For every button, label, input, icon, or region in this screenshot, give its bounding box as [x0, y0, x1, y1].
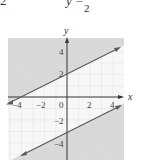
y-tick-neg2: −2 [54, 116, 64, 126]
inequality-graph: y x −4 −2 0 2 4 4 2 −2 −4 [0, 0, 144, 164]
x-tick-4: 4 [110, 100, 115, 110]
y-axis-label: y [63, 25, 69, 36]
x-tick-neg4: −4 [12, 100, 22, 110]
x-tick-0: 0 [59, 100, 64, 110]
x-tick-neg2: −2 [36, 100, 46, 110]
y-tick-neg4: −4 [54, 139, 64, 149]
x-tick-2: 2 [87, 100, 92, 110]
y-tick-4: 4 [59, 47, 64, 57]
plot-area [8, 38, 124, 162]
y-tick-2: 2 [59, 69, 64, 79]
x-axis-label: x [127, 91, 133, 102]
